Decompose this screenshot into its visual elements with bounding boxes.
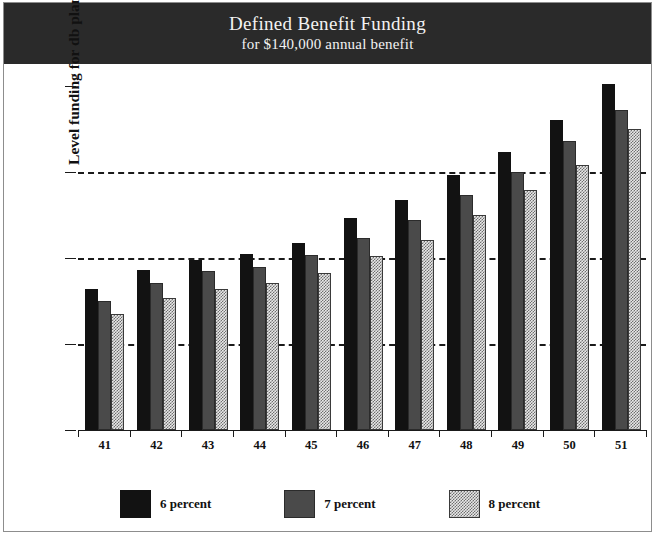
legend-label-8-percent: 8 percent <box>489 496 540 512</box>
x-axis-line <box>78 430 646 431</box>
bar-group <box>137 86 176 430</box>
bar[interactable] <box>550 120 563 430</box>
y-tick-mark <box>65 344 76 345</box>
x-tick-label: 51 <box>601 438 641 453</box>
bar[interactable] <box>524 190 537 430</box>
y-tick-mark <box>65 258 76 259</box>
x-tick-label: 46 <box>343 438 383 453</box>
x-tick-label: 47 <box>395 438 435 453</box>
x-tick-mark <box>439 430 440 437</box>
bar-group <box>292 86 331 430</box>
bar[interactable] <box>357 238 370 430</box>
x-tick-mark <box>336 430 337 437</box>
chart-subtitle: for $140,000 annual benefit <box>241 35 413 54</box>
bar-group <box>189 86 228 430</box>
y-tick-mark <box>65 430 76 431</box>
x-tick-label: 45 <box>291 438 331 453</box>
chart-figure: Defined Benefit Funding for $140,000 ann… <box>0 0 658 542</box>
bar-group <box>85 86 124 430</box>
x-tick-mark <box>181 430 182 437</box>
bar-group <box>447 86 486 430</box>
x-tick-label: 42 <box>136 438 176 453</box>
legend-swatch-8-percent <box>449 490 480 518</box>
x-tick-mark <box>388 430 389 437</box>
bar[interactable] <box>370 256 383 430</box>
bar[interactable] <box>292 243 305 430</box>
bar-group <box>344 86 383 430</box>
bar[interactable] <box>163 298 176 430</box>
legend-label-6-percent: 6 percent <box>160 496 211 512</box>
bar[interactable] <box>202 271 215 430</box>
bar[interactable] <box>137 270 150 430</box>
bar[interactable] <box>615 110 628 430</box>
bar[interactable] <box>150 283 163 430</box>
bar[interactable] <box>628 129 641 430</box>
bar-group <box>498 86 537 430</box>
x-tick-label: 44 <box>240 438 280 453</box>
bar-group <box>602 86 641 430</box>
x-tick-label: 48 <box>446 438 486 453</box>
x-tick-mark <box>543 430 544 437</box>
y-tick-mark <box>65 86 76 87</box>
bar[interactable] <box>215 289 228 430</box>
y-tick-mark <box>65 172 76 173</box>
x-tick-mark <box>233 430 234 437</box>
x-tick-mark <box>491 430 492 437</box>
chart-legend: 6 percent 7 percent 8 percent <box>120 487 540 521</box>
plot-area: Level funding for db plan (int. only) 02… <box>78 86 646 430</box>
bar[interactable] <box>498 152 511 430</box>
bar[interactable] <box>266 283 279 430</box>
bar[interactable] <box>447 175 460 430</box>
x-tick-label: 43 <box>188 438 228 453</box>
legend-item[interactable]: 8 percent <box>449 490 540 518</box>
legend-item[interactable]: 7 percent <box>284 490 375 518</box>
legend-item[interactable]: 6 percent <box>120 490 211 518</box>
bar-group <box>395 86 434 430</box>
bar[interactable] <box>85 289 98 430</box>
bar-group <box>550 86 589 430</box>
x-tick-label: 49 <box>498 438 538 453</box>
bar[interactable] <box>576 165 589 430</box>
y-axis-label: Level funding for db plan (int. only) <box>65 0 83 206</box>
legend-swatch-6-percent <box>120 490 151 518</box>
bar[interactable] <box>602 84 615 430</box>
bar[interactable] <box>111 314 124 430</box>
x-tick-label: 50 <box>550 438 590 453</box>
x-tick-mark <box>78 430 79 437</box>
bar[interactable] <box>408 220 421 430</box>
chart-title: Defined Benefit Funding <box>229 13 426 35</box>
bar[interactable] <box>240 254 253 430</box>
bar[interactable] <box>563 141 576 430</box>
legend-label-7-percent: 7 percent <box>324 496 375 512</box>
bar[interactable] <box>395 200 408 430</box>
x-tick-mark <box>646 430 647 437</box>
bar[interactable] <box>421 240 434 430</box>
x-tick-mark <box>285 430 286 437</box>
bar[interactable] <box>305 255 318 430</box>
bar[interactable] <box>344 218 357 430</box>
bar[interactable] <box>98 301 111 430</box>
bar[interactable] <box>189 260 202 430</box>
legend-swatch-7-percent <box>284 490 315 518</box>
bar[interactable] <box>318 273 331 430</box>
bar-group <box>240 86 279 430</box>
bar[interactable] <box>473 215 486 430</box>
bar[interactable] <box>253 267 266 430</box>
bar[interactable] <box>511 172 524 430</box>
chart-title-band: Defined Benefit Funding for $140,000 ann… <box>4 3 651 64</box>
bar[interactable] <box>460 195 473 430</box>
x-tick-label: 41 <box>85 438 125 453</box>
x-tick-mark <box>130 430 131 437</box>
x-tick-mark <box>594 430 595 437</box>
